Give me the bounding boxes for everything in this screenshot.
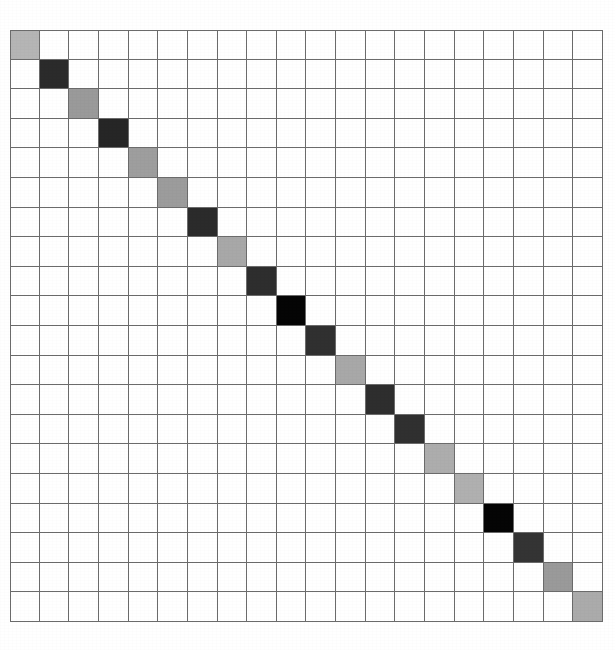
- heatmap-cell: [99, 356, 129, 386]
- heatmap-cell: [10, 178, 40, 208]
- heatmap-cell: [69, 267, 99, 297]
- heatmap-cell: [514, 267, 544, 297]
- heatmap-cell: [425, 326, 455, 356]
- heatmap-cell: [336, 237, 366, 267]
- heatmap-cell: [455, 385, 485, 415]
- heatmap-cell: [218, 415, 248, 445]
- heatmap-cell: [336, 444, 366, 474]
- heatmap-cell: [544, 326, 574, 356]
- heatmap-cell: [336, 592, 366, 622]
- heatmap-cell: [10, 563, 40, 593]
- heatmap-cell: [544, 119, 574, 149]
- heatmap-cell: [129, 30, 159, 60]
- heatmap-cell: [514, 119, 544, 149]
- heatmap-cell: [425, 267, 455, 297]
- heatmap-cell: [336, 563, 366, 593]
- heatmap-cell: [129, 60, 159, 90]
- heatmap-cell: [10, 267, 40, 297]
- heatmap-cell: [129, 592, 159, 622]
- heatmap-cell: [514, 592, 544, 622]
- heatmap-cell: [247, 385, 277, 415]
- heatmap-cell: [484, 444, 514, 474]
- heatmap-cell: [69, 30, 99, 60]
- heatmap-cell-diagonal: [218, 237, 248, 267]
- heatmap-cell: [69, 474, 99, 504]
- heatmap-cell: [40, 592, 70, 622]
- heatmap-cell: [573, 563, 603, 593]
- heatmap-cell: [40, 89, 70, 119]
- heatmap-cell: [10, 89, 40, 119]
- heatmap-cell: [188, 326, 218, 356]
- heatmap-cell: [247, 237, 277, 267]
- heatmap-cell: [247, 504, 277, 534]
- heatmap-cell: [188, 592, 218, 622]
- heatmap-cell: [69, 415, 99, 445]
- heatmap-cell: [544, 533, 574, 563]
- heatmap-cell: [514, 89, 544, 119]
- heatmap-cell: [10, 119, 40, 149]
- heatmap-cell: [455, 533, 485, 563]
- heatmap-cell: [366, 178, 396, 208]
- heatmap-cell: [247, 60, 277, 90]
- heatmap-cell: [425, 208, 455, 238]
- heatmap-cell: [158, 444, 188, 474]
- heatmap-cell: [188, 474, 218, 504]
- heatmap-cell-diagonal: [277, 296, 307, 326]
- heatmap-cell: [484, 296, 514, 326]
- heatmap-cell: [366, 60, 396, 90]
- heatmap-cell: [10, 356, 40, 386]
- heatmap-cell: [366, 326, 396, 356]
- heatmap-cell: [218, 356, 248, 386]
- heatmap-cell: [277, 237, 307, 267]
- heatmap-cell: [425, 89, 455, 119]
- heatmap-cell: [69, 592, 99, 622]
- heatmap-cell: [277, 356, 307, 386]
- heatmap-cell: [425, 60, 455, 90]
- heatmap-cell: [544, 237, 574, 267]
- heatmap-grid: [10, 30, 603, 622]
- heatmap-cell: [306, 237, 336, 267]
- heatmap-cell: [366, 563, 396, 593]
- heatmap-cell: [129, 326, 159, 356]
- heatmap-cell: [158, 326, 188, 356]
- heatmap-cell: [573, 474, 603, 504]
- heatmap-cell: [336, 474, 366, 504]
- heatmap-cell: [544, 385, 574, 415]
- heatmap-cell: [573, 89, 603, 119]
- heatmap-cell: [455, 60, 485, 90]
- heatmap-cell: [99, 504, 129, 534]
- heatmap-cell: [544, 296, 574, 326]
- heatmap-cell: [425, 30, 455, 60]
- heatmap-cell: [99, 178, 129, 208]
- heatmap-cell-diagonal: [514, 533, 544, 563]
- heatmap-cell: [336, 326, 366, 356]
- heatmap-cell: [573, 237, 603, 267]
- heatmap-cell: [484, 267, 514, 297]
- heatmap-cell: [366, 533, 396, 563]
- heatmap-cell: [336, 296, 366, 326]
- heatmap-cell: [99, 533, 129, 563]
- heatmap-cell: [484, 60, 514, 90]
- heatmap-cell: [514, 237, 544, 267]
- heatmap-cell: [247, 533, 277, 563]
- heatmap-cell: [247, 326, 277, 356]
- heatmap-cell: [425, 474, 455, 504]
- heatmap-cell: [218, 148, 248, 178]
- heatmap-cell: [484, 592, 514, 622]
- heatmap-cell: [129, 89, 159, 119]
- heatmap-cell: [218, 208, 248, 238]
- heatmap-cell: [158, 296, 188, 326]
- heatmap-cell: [425, 119, 455, 149]
- heatmap-cell: [306, 504, 336, 534]
- heatmap-cell: [158, 504, 188, 534]
- heatmap-cell: [544, 30, 574, 60]
- heatmap-cell: [129, 533, 159, 563]
- heatmap-cell: [336, 267, 366, 297]
- heatmap-cell: [247, 444, 277, 474]
- heatmap-cell: [336, 30, 366, 60]
- heatmap-cell: [425, 178, 455, 208]
- heatmap-cell: [366, 504, 396, 534]
- heatmap-cell: [336, 148, 366, 178]
- heatmap-cell: [40, 148, 70, 178]
- heatmap-cell: [69, 208, 99, 238]
